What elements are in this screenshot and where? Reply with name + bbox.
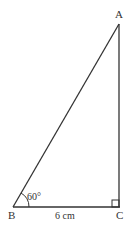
vertex-a-label: A [115, 8, 123, 20]
vertex-c-label: C [116, 209, 123, 221]
vertex-b-label: B [8, 209, 15, 221]
side-ab [13, 24, 119, 207]
side-bc-label: 6 cm [55, 210, 75, 221]
right-angle-marker [112, 200, 119, 207]
triangle-diagram: A B C 60° 6 cm [0, 0, 132, 238]
angle-b-label: 60° [27, 191, 41, 202]
triangle-abc [13, 24, 120, 207]
